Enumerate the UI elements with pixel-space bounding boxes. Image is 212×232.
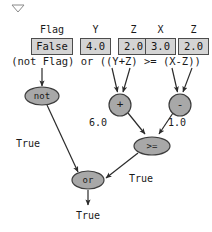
node-not[interactable]	[25, 87, 59, 105]
variable-x-value[interactable]: 3.0	[145, 38, 176, 55]
edge-label-not-to-or: True	[11, 138, 45, 149]
variable-flag[interactable]: Flag False	[31, 24, 73, 55]
variable-z2-label: Z	[178, 24, 209, 35]
variable-x-label: X	[145, 24, 176, 35]
variable-flag-label: Flag	[31, 24, 73, 35]
node-gte[interactable]	[134, 137, 170, 155]
edge-label-minus-to-gte: 1.0	[163, 117, 191, 128]
computation-graph-panel: Flag False Y 4.0 Z 2.0 X 3.0 Z 2.0 (not …	[0, 0, 212, 232]
node-plus[interactable]	[109, 94, 131, 116]
expression-right-operand: ((Y+Z) >= (X-Z))	[100, 55, 201, 67]
variable-y-value[interactable]: 4.0	[80, 38, 111, 55]
expression-left-operand: (not Flag)	[11, 55, 74, 67]
expression-operator: or	[74, 55, 99, 67]
variable-z2[interactable]: Z 2.0	[178, 24, 209, 55]
expression-line: (not Flag) or ((Y+Z) >= (X-Z))	[0, 55, 212, 67]
edge-label-plus-to-gte: 6.0	[84, 117, 112, 128]
edge-label-or-output: True	[71, 210, 105, 221]
variable-y[interactable]: Y 4.0	[80, 24, 111, 55]
variable-flag-value[interactable]: False	[31, 38, 73, 55]
variable-y-label: Y	[80, 24, 111, 35]
edge-plus-to-gte	[128, 113, 145, 134]
edge-not-to-or	[47, 105, 78, 172]
edge-label-gte-to-or: True	[124, 173, 158, 184]
edge-y-to-plus	[112, 68, 118, 92]
variable-z2-value[interactable]: 2.0	[178, 38, 209, 55]
variable-x[interactable]: X 3.0	[145, 24, 176, 55]
edge-x-to-minus	[172, 68, 178, 92]
node-or[interactable]	[72, 171, 104, 189]
node-minus[interactable]	[169, 94, 191, 116]
edge-z-to-plus	[123, 68, 130, 92]
edge-z2-to-minus	[183, 68, 192, 92]
